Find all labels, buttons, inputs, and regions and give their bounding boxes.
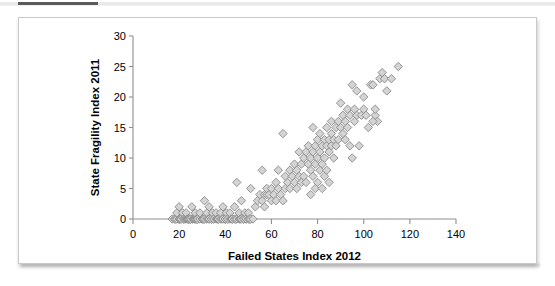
x-tick-label: 140 <box>447 228 465 240</box>
x-tick-label: 100 <box>355 228 373 240</box>
data-point <box>355 142 363 150</box>
y-tick-label: 5 <box>120 183 126 195</box>
data-point <box>348 154 356 162</box>
y-axis-title: State Fragility Index 2011 <box>89 58 101 196</box>
data-point <box>360 93 368 101</box>
y-tick-label: 30 <box>114 30 126 42</box>
top-rule-hairline <box>0 5 555 6</box>
scatter-plot: 051015202530020406080100120140 Failed St… <box>19 18 538 265</box>
y-tick-label: 10 <box>114 152 126 164</box>
x-tick-label: 60 <box>265 228 277 240</box>
data-point <box>246 184 254 192</box>
data-point <box>336 99 344 107</box>
y-tick-label: 15 <box>114 122 126 134</box>
data-points-group <box>168 62 403 223</box>
figure-card: 051015202530020406080100120140 Failed St… <box>18 17 537 264</box>
x-tick-label: 40 <box>219 228 231 240</box>
data-point <box>394 62 402 70</box>
x-tick-label: 0 <box>130 228 136 240</box>
data-point <box>383 87 391 95</box>
data-point <box>258 166 266 174</box>
data-point <box>237 197 245 205</box>
x-axis-title: Failed States Index 2012 <box>228 250 361 262</box>
data-point <box>309 123 317 131</box>
y-tick-label: 20 <box>114 91 126 103</box>
axes-group: 051015202530020406080100120140 <box>114 30 465 240</box>
x-tick-label: 120 <box>401 228 419 240</box>
data-point <box>274 166 282 174</box>
x-tick-label: 80 <box>311 228 323 240</box>
y-tick-label: 25 <box>114 61 126 73</box>
data-point <box>387 75 395 83</box>
data-point <box>279 129 287 137</box>
data-point <box>371 105 379 113</box>
y-tick-label: 0 <box>120 213 126 225</box>
x-tick-label: 20 <box>173 228 185 240</box>
data-point <box>233 178 241 186</box>
scatter-plot-svg: 051015202530020406080100120140 Failed St… <box>19 18 538 265</box>
